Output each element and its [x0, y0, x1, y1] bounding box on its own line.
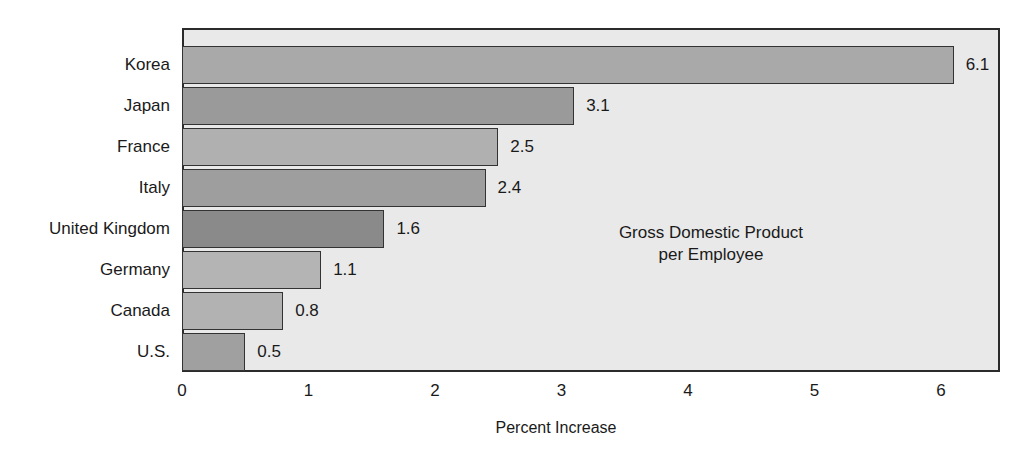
value-label-u-s: 0.5: [257, 343, 281, 360]
plot-area: [182, 28, 1000, 372]
value-label-japan: 3.1: [586, 97, 610, 114]
x-tick-3: 3: [542, 382, 582, 399]
annotation-line-2: per Employee: [580, 244, 842, 266]
x-axis-title-text: Percent Increase: [496, 419, 617, 436]
x-tick-4: 4: [668, 382, 708, 399]
gdp-per-employee-bar-chart: KoreaJapanFranceItalyUnited KingdomGerma…: [0, 0, 1020, 459]
category-label-korea: Korea: [0, 56, 170, 73]
x-tick-1: 1: [289, 382, 329, 399]
chart-annotation: Gross Domestic Product per Employee: [580, 222, 842, 266]
value-label-italy: 2.4: [498, 179, 522, 196]
x-tick-5: 5: [795, 382, 835, 399]
x-tick-2: 2: [415, 382, 455, 399]
value-label-france: 2.5: [510, 138, 534, 155]
category-label-u-s: U.S.: [0, 343, 170, 360]
category-label-canada: Canada: [0, 302, 170, 319]
x-tick-0: 0: [162, 382, 202, 399]
category-label-japan: Japan: [0, 97, 170, 114]
x-axis-title: Percent Increase: [0, 419, 1020, 437]
category-label-italy: Italy: [0, 179, 170, 196]
x-tick-6: 6: [921, 382, 961, 399]
category-label-france: France: [0, 138, 170, 155]
value-label-korea: 6.1: [966, 56, 990, 73]
value-label-united-kingdom: 1.6: [396, 220, 420, 237]
category-label-united-kingdom: United Kingdom: [0, 220, 170, 237]
annotation-line-1: Gross Domestic Product: [580, 222, 842, 244]
value-label-canada: 0.8: [295, 302, 319, 319]
category-label-germany: Germany: [0, 261, 170, 278]
value-label-germany: 1.1: [333, 261, 357, 278]
